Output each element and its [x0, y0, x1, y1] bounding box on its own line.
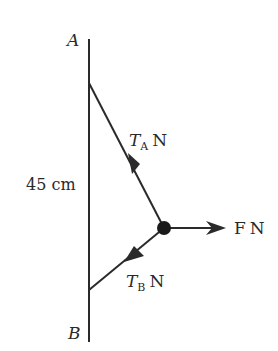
string-a: [89, 83, 164, 228]
label-ta: TAN: [129, 130, 167, 153]
label-tb: TBN: [126, 271, 164, 294]
force-diagram: A B 45 cm TAN TBN FN: [0, 0, 278, 351]
diagram-svg: A B 45 cm TAN TBN FN: [0, 0, 278, 351]
label-f: FN: [234, 218, 265, 238]
arrow-tb-icon: [124, 246, 144, 262]
label-a: A: [65, 30, 79, 50]
label-b: B: [67, 323, 81, 343]
node-point: [157, 221, 171, 235]
distance-label: 45 cm: [26, 175, 76, 194]
